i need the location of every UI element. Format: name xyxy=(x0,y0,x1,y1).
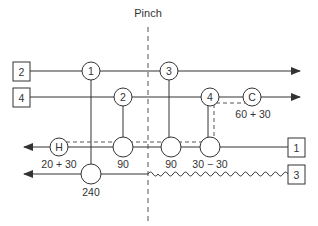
exchanger-1-top: 1 xyxy=(82,62,100,80)
svg-text:H: H xyxy=(55,141,63,153)
heater-node: H xyxy=(50,138,68,156)
exchanger-2-bottom xyxy=(113,137,133,157)
exchanger-3-bottom xyxy=(161,137,181,157)
pinch-divider: Pinch xyxy=(134,7,162,222)
exchanger-2-top: 2 xyxy=(114,88,132,106)
svg-text:1: 1 xyxy=(88,65,94,77)
cooler-duty-label: 60 + 30 xyxy=(235,108,270,120)
dashed-loop xyxy=(59,103,250,142)
exchanger-3-top: 3 xyxy=(160,62,178,80)
stream-2-label: 2 xyxy=(19,66,25,78)
exchanger-4-top: 4 xyxy=(201,88,219,106)
exchanger-4-bottom xyxy=(200,137,220,157)
stream-4-label: 4 xyxy=(19,92,25,104)
svg-text:C: C xyxy=(248,91,256,103)
pinch-label: Pinch xyxy=(134,7,162,19)
heat-exchanger-network-diagram: Pinch 2 4 1 3 1 3 xyxy=(0,0,318,226)
exchanger-1-bottom xyxy=(81,164,101,184)
svg-text:2: 2 xyxy=(120,91,126,103)
stream-1-label: 1 xyxy=(294,142,300,154)
heater-duty-label: 20 + 30 xyxy=(41,158,76,170)
svg-text:4: 4 xyxy=(207,91,213,103)
cooler-node: C xyxy=(243,88,261,106)
exchanger-4-duty-label: 30 − 30 xyxy=(192,158,227,170)
exchanger-1-duty-label: 240 xyxy=(82,186,100,198)
svg-text:3: 3 xyxy=(166,65,172,77)
exchanger-3-duty-label: 90 xyxy=(165,158,177,170)
stream-2: 2 xyxy=(13,62,300,81)
stream-3-label: 3 xyxy=(294,169,300,181)
exchanger-2-duty-label: 90 xyxy=(117,158,129,170)
stream-3-wavy-segment xyxy=(148,172,288,176)
exchanger-links xyxy=(91,80,208,164)
